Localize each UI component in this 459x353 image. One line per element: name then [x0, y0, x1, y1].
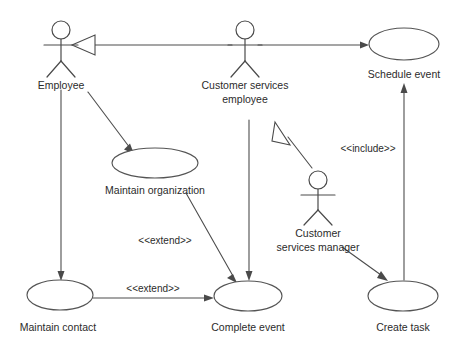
- use-case-complete-event[interactable]: Complete event: [211, 281, 285, 333]
- assoc-employee-to-maintain-organization: [88, 92, 134, 154]
- uml-diagram-svg: Employee Customer services employee Cust…: [0, 0, 459, 353]
- use-case-ellipse: [214, 281, 282, 311]
- use-case-label-schedule-event: Schedule event: [368, 68, 440, 80]
- extend-maintain-contact-to-complete-event: [93, 295, 214, 302]
- stereotype-extend-label-lower: <<extend>>: [126, 283, 180, 294]
- stereotype-include-label: <<include>>: [340, 143, 395, 154]
- actor-leg-right: [245, 61, 259, 77]
- actor-label-manager-line2: services manager: [277, 241, 360, 253]
- actor-label-cse-line1: Customer services: [202, 79, 289, 91]
- include-create-task-to-schedule-event: [401, 83, 408, 280]
- assoc-cse-to-complete-event: [246, 120, 253, 281]
- use-case-label-complete-event: Complete event: [211, 321, 285, 333]
- use-case-diagram-canvas: Employee Customer services employee Cust…: [0, 0, 459, 353]
- generalization-manager-to-cse: [272, 122, 312, 168]
- use-case-label-create-task: Create task: [376, 321, 430, 333]
- actor-leg-right: [61, 61, 75, 77]
- assoc-cse-to-schedule-event: [258, 42, 369, 49]
- use-case-maintain-organization[interactable]: Maintain organization: [105, 148, 205, 196]
- actor-leg-left: [231, 61, 245, 77]
- actor-leg-right: [318, 210, 332, 225]
- actor-employee[interactable]: Employee: [38, 21, 85, 91]
- extend-maintain-organization-to-complete-event: [186, 193, 237, 283]
- use-case-maintain-contact[interactable]: Maintain contact: [20, 280, 97, 333]
- use-case-schedule-event[interactable]: Schedule event: [368, 28, 440, 80]
- actor-customer-services-manager[interactable]: Customer services manager: [277, 171, 360, 253]
- use-case-ellipse: [112, 148, 198, 178]
- use-case-ellipse: [369, 28, 439, 60]
- actor-head-icon: [309, 171, 327, 189]
- use-case-create-task[interactable]: Create task: [368, 281, 438, 333]
- actor-customer-services-employee[interactable]: Customer services employee: [202, 21, 289, 105]
- use-case-ellipse: [368, 281, 438, 311]
- actor-label-cse-line2: employee: [222, 93, 268, 105]
- use-case-ellipse: [27, 280, 93, 310]
- actor-label-manager-line1: Customer: [295, 227, 341, 239]
- actor-head-icon: [236, 21, 254, 39]
- stereotype-extend-label-upper: <<extend>>: [138, 235, 192, 246]
- generalization-cse-to-employee: [72, 35, 232, 55]
- use-case-label-maintain-contact: Maintain contact: [20, 321, 97, 333]
- actor-label-employee: Employee: [38, 79, 85, 91]
- actor-head-icon: [52, 21, 70, 39]
- use-case-label-maintain-organization: Maintain organization: [105, 184, 205, 196]
- assoc-employee-to-maintain-contact: [58, 90, 65, 281]
- actor-leg-left: [304, 210, 318, 225]
- actor-leg-left: [47, 61, 61, 77]
